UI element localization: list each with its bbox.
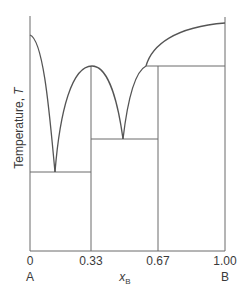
x-tick-033: 0.33	[79, 254, 103, 268]
y-axis-label: Temperature, T	[12, 86, 26, 169]
x-tick-067: 0.67	[146, 254, 170, 268]
endpoint-label-B: B	[221, 270, 229, 284]
liquidus-compound-1-left	[55, 66, 92, 172]
x-tick-0: 0	[27, 254, 34, 268]
phase-diagram: Temperature, T 0 0.33 0.67 1.00 A B xB	[0, 0, 248, 294]
liquidus-eutectic-2-right	[123, 66, 146, 139]
endpoint-label-A: A	[26, 270, 34, 284]
liquidus-A-side	[30, 35, 55, 172]
x-tick-100: 1.00	[213, 254, 237, 268]
x-axis-label: xB	[118, 270, 130, 286]
liquidus-compound-1-right	[92, 66, 123, 139]
liquidus-B-side	[146, 23, 225, 66]
